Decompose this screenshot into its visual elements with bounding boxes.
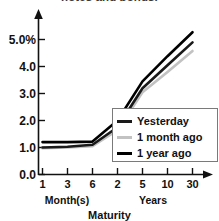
legend-swatch-yesterday — [117, 120, 132, 123]
legend-item-1-year-ago[interactable]: 1 year ago — [117, 145, 214, 161]
chart-legend: Yesterday 1 month ago 1 year ago — [112, 108, 218, 162]
x-axis-group-label-months: Month(s) — [22, 194, 112, 206]
legend-item-yesterday[interactable]: Yesterday — [117, 113, 214, 129]
x-axis-title: Maturity — [0, 209, 219, 221]
y-tick-marks — [39, 40, 46, 175]
legend-label-1-year-ago: 1 year ago — [137, 147, 191, 159]
chart-figure: notes and bonds. — [0, 0, 219, 221]
y-tick-label-1: 1.0 — [0, 141, 36, 155]
legend-swatch-1-year-ago — [117, 152, 132, 155]
x-tick-label-10-years: 10 — [158, 178, 178, 190]
x-tick-label-3-months: 3 — [58, 178, 78, 190]
y-axis-arrowhead — [34, 9, 43, 19]
x-tick-label-6-months: 6 — [83, 178, 103, 190]
x-axis-arrowhead — [203, 170, 213, 178]
x-tick-label-2-years: 2 — [108, 178, 128, 190]
y-tick-label-4: 4.0 — [0, 60, 36, 74]
legend-item-1-month-ago[interactable]: 1 month ago — [117, 129, 214, 145]
legend-swatch-1-month-ago — [117, 136, 132, 139]
y-tick-label-0: 0.0 — [0, 168, 36, 182]
x-tick-label-5-years: 5 — [133, 178, 153, 190]
legend-label-1-month-ago: 1 month ago — [137, 131, 202, 143]
y-tick-label-2: 2.0 — [0, 114, 36, 128]
y-tick-label-3: 3.0 — [0, 87, 36, 101]
x-tick-marks — [43, 168, 193, 175]
x-axis-group-label-years: Years — [118, 194, 188, 206]
y-tick-label-5: 5.0% — [0, 33, 36, 47]
x-tick-label-30-years: 30 — [183, 178, 203, 190]
legend-label-yesterday: Yesterday — [137, 115, 189, 127]
x-tick-label-1-month: 1 — [33, 178, 53, 190]
